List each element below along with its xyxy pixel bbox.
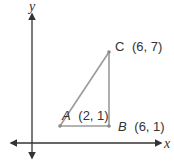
vertex-c-label: C (6, 7) xyxy=(115,39,162,54)
vertex-b-name: B xyxy=(118,119,127,134)
vertex-a-coords: (2, 1) xyxy=(78,108,108,123)
coordinate-plane: y x C (6, 7) A (2, 1) B (6, 1) xyxy=(0,0,174,168)
vertex-a-name: A xyxy=(61,108,71,123)
vertex-b-label: B (6, 1) xyxy=(118,119,165,134)
vertex-b-point xyxy=(107,124,111,128)
vertex-a-label: A (2, 1) xyxy=(61,108,109,123)
vertex-c-name: C xyxy=(115,39,124,54)
vertex-b-coords: (6, 1) xyxy=(134,119,164,134)
vertex-a-point xyxy=(58,124,62,128)
vertex-c-point xyxy=(107,50,111,54)
y-axis-label: y xyxy=(27,0,36,14)
vertex-c-coords: (6, 7) xyxy=(132,39,162,54)
x-axis-label: x xyxy=(163,136,171,151)
